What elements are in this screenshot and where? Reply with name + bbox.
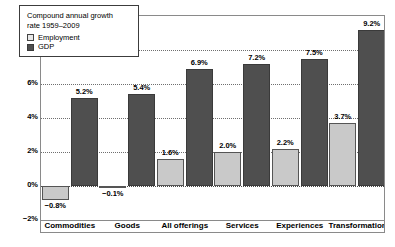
bar-gdp-transformations <box>358 30 385 186</box>
gdp-swatch-icon <box>27 44 34 51</box>
legend-item-gdp: GDP <box>27 43 132 51</box>
bar-employment-transformations <box>329 123 356 186</box>
bar-value-label-gdp-goods: 5.4% <box>117 84 166 92</box>
x-axis-label-services: Services <box>214 222 272 230</box>
legend-item-employment: Employment <box>27 34 132 42</box>
bar-value-label-gdp-commodities: 5.2% <box>60 88 109 96</box>
x-axis-label-commodities: Commodities <box>41 222 99 230</box>
y-axis-tick-neg2: −2% <box>4 215 38 223</box>
bar-gdp-experiences <box>301 59 328 187</box>
bar-value-label-gdp-all-offerings: 6.9% <box>175 59 224 67</box>
bar-employment-all-offerings <box>157 159 184 186</box>
bar-gdp-goods <box>128 94 155 186</box>
legend: Compound annual growth rate 1959–2009 Em… <box>19 5 139 57</box>
bar-employment-commodities <box>42 186 69 200</box>
x-axis-label-goods: Goods <box>99 222 157 230</box>
bar-value-label-employment-commodities: −0.8% <box>40 202 80 210</box>
y-axis-tick-6: 6% <box>4 79 38 87</box>
legend-title-line-1: Compound annual growth <box>27 11 113 20</box>
legend-title-line-2: rate 1959–2009 <box>27 21 80 30</box>
bar-gdp-services <box>243 64 270 186</box>
bar-value-label-gdp-experiences: 7.5% <box>290 49 339 57</box>
bar-employment-goods <box>99 186 126 188</box>
bar-chart: 10%8%6%4%2%0%−2% −0.8%5.2%−0.1%5.4%1.6%6… <box>0 0 395 247</box>
y-axis-tick-4: 4% <box>4 113 38 121</box>
x-axis-label-transformations: Transformations <box>329 222 386 230</box>
bar-value-label-employment-goods: −0.1% <box>88 190 137 198</box>
x-axis-label-all-offerings: All offerings <box>156 222 214 230</box>
bar-value-label-gdp-services: 7.2% <box>232 54 281 62</box>
gridline-0 <box>41 186 384 187</box>
employment-swatch-icon <box>27 34 34 41</box>
x-axis-label-experiences: Experiences <box>271 222 329 230</box>
bar-employment-experiences <box>272 149 299 186</box>
bar-value-label-gdp-transformations: 9.2% <box>347 20 385 28</box>
bar-gdp-commodities <box>71 98 98 186</box>
y-axis-tick-0: 0% <box>4 181 38 189</box>
y-axis-tick-2: 2% <box>4 147 38 155</box>
legend-label-gdp: GDP <box>38 43 54 51</box>
legend-label-employment: Employment <box>38 34 80 42</box>
bar-gdp-all-offerings <box>186 69 213 186</box>
legend-title: Compound annual growth rate 1959–2009 <box>27 11 132 31</box>
bar-employment-services <box>214 152 241 186</box>
